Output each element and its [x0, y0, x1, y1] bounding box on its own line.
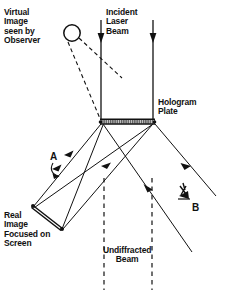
ray-right-plate-to-lower-right [155, 124, 216, 196]
ray-right-to-screen-bottom [63, 125, 152, 229]
point-a-label: A [50, 152, 57, 161]
hologram-plate-bar [100, 119, 155, 124]
plate-left-node [99, 120, 103, 124]
screen-top-node [31, 204, 35, 208]
incident-laser-beam-label: Incident Laser Beam [106, 8, 137, 36]
undiffracted-beam-label: Undiffracted Beam [103, 246, 151, 265]
converging-ray-arrowheads [52, 151, 111, 172]
label-a-arrowhead [53, 174, 60, 180]
point-b-label: B [192, 203, 199, 212]
observer-eye-icon [178, 183, 190, 199]
hologram-plate-label: Hologram Plate [158, 98, 196, 117]
screen-bottom-node [60, 227, 64, 231]
hologram-diagram: Virtual Image seen by Observer Incident … [0, 0, 227, 291]
incident-beam-left-arrowhead [98, 33, 105, 43]
plate-right-node [153, 120, 157, 124]
real-image-label: Real Image Focused on Screen [4, 211, 50, 248]
virtual-image-circle [64, 25, 80, 41]
ray-left-to-screen-bottom [62, 125, 103, 229]
ray-left-to-screen-top [34, 124, 102, 207]
virtual-image-label: Virtual Image seen by Observer [4, 8, 40, 45]
incident-beam-right-arrowhead [150, 33, 157, 43]
